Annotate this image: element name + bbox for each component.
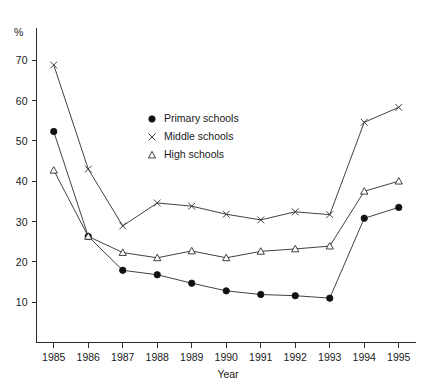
data-point-marker: [258, 291, 264, 297]
y-tick-label: 10: [16, 296, 28, 308]
legend-marker-filled-circle: [149, 116, 155, 122]
legend-label: High schools: [164, 148, 224, 160]
y-tick-label: 20: [16, 256, 28, 268]
y-tick-label: 70: [16, 54, 28, 66]
x-tick-label: 1988: [146, 351, 170, 363]
data-point-marker: [50, 167, 57, 173]
chart-canvas: 10203040506070 1985198619871988198919901…: [0, 0, 426, 390]
y-tick-label: 30: [16, 216, 28, 228]
x-tick-label: 1991: [249, 351, 273, 363]
axes-group: [37, 28, 417, 343]
data-point-marker: [189, 280, 195, 286]
x-tick-label: 1992: [284, 351, 308, 363]
line-chart: 10203040506070 1985198619871988198919901…: [0, 0, 426, 390]
x-tick-label: 1989: [180, 351, 204, 363]
data-point-marker: [51, 128, 57, 134]
x-tick-label: 1987: [111, 351, 135, 363]
x-tick-label: 1986: [77, 351, 101, 363]
data-point-marker: [154, 272, 160, 278]
legend-marker-open-triangle: [148, 151, 155, 157]
y-tick-label: 40: [16, 175, 28, 187]
data-point-marker: [327, 295, 333, 301]
chart-legend: Primary schoolsMiddle schoolsHigh school…: [148, 112, 238, 160]
data-point-marker: [395, 178, 402, 184]
data-point-marker: [188, 247, 195, 253]
data-point-marker: [326, 243, 333, 249]
data-point-marker: [119, 249, 126, 255]
y-axis-unit-label: %: [14, 26, 23, 38]
series-layer: [50, 62, 402, 302]
x-axis-ticks: 1985198619871988198919901991199219931994…: [42, 343, 411, 363]
x-axis-title: Year: [217, 368, 239, 380]
x-tick-label: 1985: [42, 351, 66, 363]
data-point-marker: [120, 267, 126, 273]
legend-label: Middle schools: [164, 130, 233, 142]
series-line: [54, 65, 399, 226]
x-tick-label: 1995: [387, 351, 411, 363]
data-point-marker: [396, 204, 402, 210]
legend-label: Primary schools: [164, 112, 239, 124]
data-point-marker: [292, 293, 298, 299]
y-axis-ticks: 10203040506070: [16, 54, 37, 308]
y-tick-label: 60: [16, 95, 28, 107]
x-tick-label: 1993: [318, 351, 342, 363]
data-point-marker: [223, 288, 229, 294]
data-point-marker: [361, 215, 367, 221]
x-tick-label: 1990: [215, 351, 239, 363]
chart-series: [50, 62, 402, 230]
y-tick-label: 50: [16, 135, 28, 147]
x-tick-label: 1994: [353, 351, 377, 363]
